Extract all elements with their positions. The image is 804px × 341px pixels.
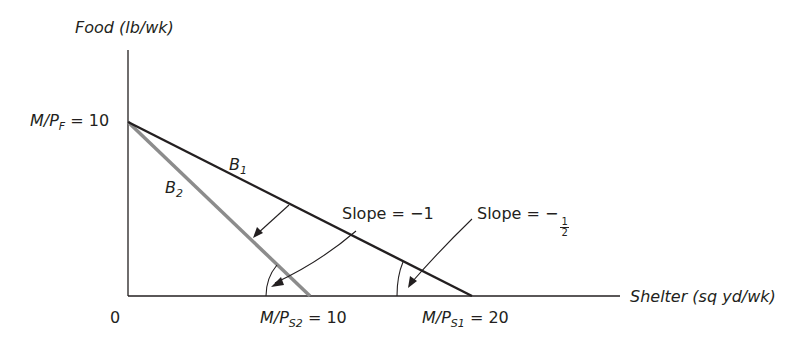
angle-arc-b1 xyxy=(397,262,403,296)
rotation-arrow xyxy=(257,205,289,234)
slope-b2-label: Slope = −1 xyxy=(342,206,434,222)
y-axis-label: Food (lb/wk) xyxy=(75,20,174,36)
slope-b1-label: Slope = −12 xyxy=(477,206,569,238)
b1-label: B1 xyxy=(229,157,247,176)
budget-line-b2 xyxy=(128,122,310,296)
angle-arc-b2 xyxy=(266,265,277,296)
b2-label: B2 xyxy=(165,180,183,199)
arrowhead-icon xyxy=(271,277,284,287)
y-intercept-label: M/PF = 10 xyxy=(30,113,109,132)
origin-label: 0 xyxy=(110,310,120,326)
slope-b1-pointer xyxy=(412,219,472,282)
x-intercept-b1-label: M/PS1 = 20 xyxy=(422,310,509,329)
arrowhead-icon xyxy=(253,227,263,238)
x-axis-label: Shelter (sq yd/wk) xyxy=(630,289,776,305)
x-intercept-b2-label: M/PS2 = 10 xyxy=(260,310,347,329)
